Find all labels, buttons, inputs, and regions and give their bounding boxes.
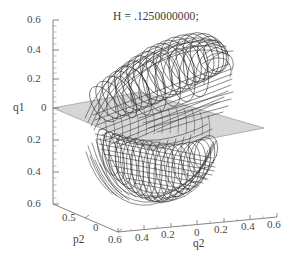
vertical-tick-0: 0.6: [27, 14, 41, 25]
horizontal-tick-4: 0.2: [214, 224, 228, 235]
horizontal-tick-0: 0.6: [108, 234, 122, 245]
horizontal-axis-label: q2: [193, 238, 205, 250]
depth-tick-0: 0.5: [62, 212, 76, 223]
vertical-tick-4: 0.2: [27, 134, 41, 145]
horizontal-tick-6: 0.6: [267, 219, 281, 230]
vertical-axis-ticks: [53, 20, 59, 204]
plot-title: H = .1250000000;: [113, 11, 199, 23]
vertical-tick-3: 0: [41, 102, 47, 113]
vertical-axis-label: q1: [13, 102, 25, 114]
depth-axis-ticks: [85, 215, 122, 232]
depth-axis-label: p2: [73, 234, 85, 246]
phase-space-figure: H = .1250000000; 0.6 0.4 0.2 0 0.2 0.4 0…: [0, 0, 285, 261]
horizontal-tick-5: 0.4: [241, 221, 255, 232]
vertical-tick-2: 0.2: [27, 73, 41, 84]
vertical-tick-1: 0.4: [27, 44, 41, 55]
horizontal-tick-1: 0.4: [135, 232, 149, 243]
vertical-tick-5: 0.4: [27, 166, 41, 177]
horizontal-tick-2: 0.2: [161, 229, 175, 240]
vertical-tick-6: 0.6: [27, 198, 41, 209]
depth-tick-1: 0: [93, 222, 99, 233]
